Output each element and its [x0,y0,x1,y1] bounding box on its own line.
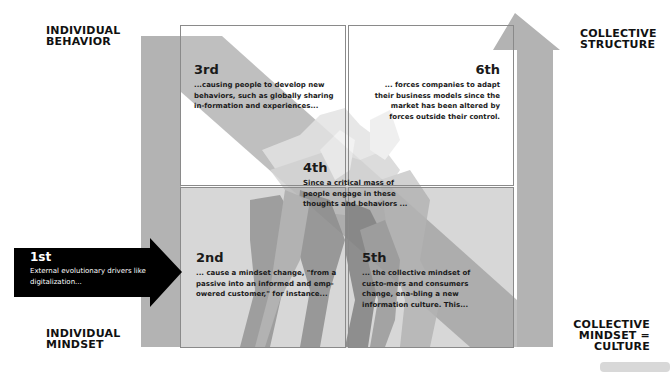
step-number: 3rd [194,62,339,78]
step-2nd: 2nd ... cause a mindset change, "from a … [196,250,341,300]
step-number: 1st [30,250,152,264]
step-number: 2nd [196,250,341,266]
step-text: ... cause a mindset change, "from a pass… [196,268,341,300]
step-number: 4th [303,160,408,176]
step-number: 6th [370,62,500,78]
step-number: 5th [362,250,492,266]
step-1st-arrow: 1st External evolutionary drivers like d… [14,238,182,307]
step-6th: 6th ... forces companies to adapt their … [370,62,500,122]
label-individual-behavior: INDIVIDUAL BEHAVIOR [46,25,120,47]
label-individual-mindset: INDIVIDUAL MINDSET [46,328,120,350]
label-collective-structure: COLLECTIVE STRUCTURE [580,28,650,50]
step-text: ... forces companies to adapt their busi… [370,80,500,122]
step-text: Since a critical mass of people engage i… [303,178,408,210]
label-collective-mindset-culture: COLLECTIVE MINDSET = CULTURE [570,319,650,352]
step-text: External evolutionary drivers like digit… [30,266,152,287]
step-3rd: 3rd ...causing people to develop new beh… [194,62,339,112]
step-text: ... the collective mindset of custo-mers… [362,268,492,310]
step-5th: 5th ... the collective mindset of custo-… [362,250,492,310]
scroll-indicator [600,362,670,372]
step-1st-content: 1st External evolutionary drivers like d… [30,250,152,287]
step-text: ...causing people to develop new behavio… [194,80,339,112]
step-4th: 4th Since a critical mass of people enga… [303,160,408,210]
